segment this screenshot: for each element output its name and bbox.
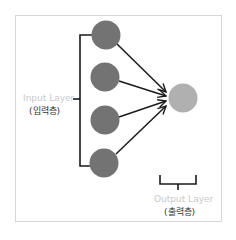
output-node <box>169 84 198 113</box>
input-node-3 <box>91 106 120 135</box>
output-layer-bracket <box>160 175 196 190</box>
input-node-4 <box>90 149 119 178</box>
output-layer-label-korean: (출력층) <box>164 207 195 218</box>
edge-input-2-output <box>119 81 166 96</box>
edges <box>116 44 166 154</box>
output-layer-label: Output Layer <box>154 194 213 205</box>
input-layer-bracket <box>73 35 92 166</box>
edge-input-3-output <box>119 101 166 117</box>
input-nodes <box>90 21 121 178</box>
edge-input-4-output <box>116 106 166 154</box>
input-node-2 <box>91 63 120 92</box>
input-layer-label: Input Layer <box>23 93 74 104</box>
edge-input-1-output <box>117 44 166 92</box>
input-layer-label-korean: (입력층) <box>29 106 60 117</box>
input-node-1 <box>92 21 121 50</box>
